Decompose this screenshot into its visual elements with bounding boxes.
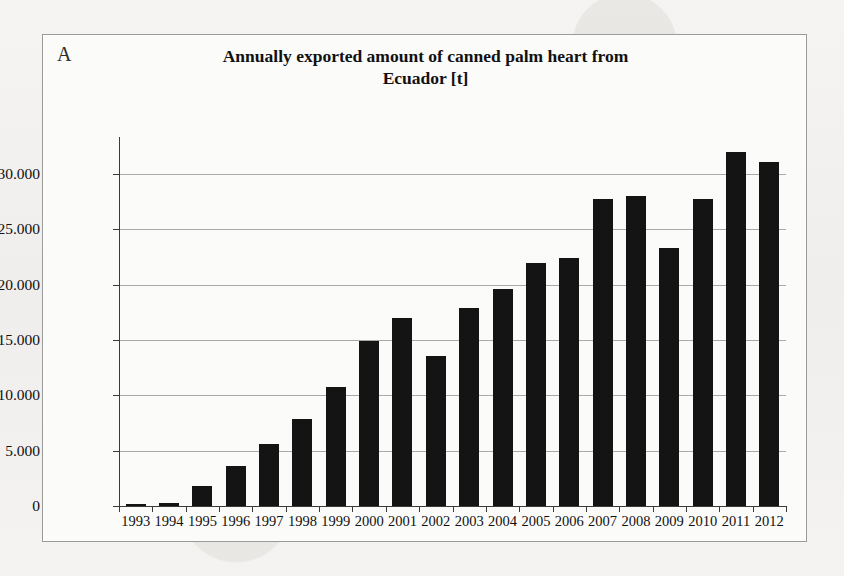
x-tick-mark <box>653 506 654 512</box>
bar <box>192 486 212 506</box>
x-tick-mark <box>553 506 554 512</box>
y-axis-tick-label: 0 <box>0 497 40 515</box>
x-tick-mark <box>686 506 687 512</box>
x-tick-mark <box>186 506 187 512</box>
x-axis-tick-label: 2012 <box>749 513 789 530</box>
y-axis-tick-label: 5.000 <box>0 442 40 460</box>
bar <box>693 199 713 506</box>
x-tick-mark <box>152 506 153 512</box>
bar <box>226 466 246 506</box>
plot-area: 05.00010.00015.00020.00025.00030.000 <box>119 141 786 506</box>
x-tick-mark <box>586 506 587 512</box>
x-tick-mark <box>219 506 220 512</box>
x-tick-mark <box>419 506 420 512</box>
chart-title-line-2: Ecuador [t] <box>113 67 738 89</box>
bar <box>426 356 446 506</box>
bar <box>593 199 613 506</box>
x-axis-tick-labels: 1993199419951996199719981999200020012002… <box>119 513 786 537</box>
bar <box>326 387 346 506</box>
x-tick-mark <box>786 506 787 512</box>
x-tick-mark <box>252 506 253 512</box>
bar <box>659 248 679 506</box>
bar <box>392 318 412 506</box>
y-axis-tick-label: 15.000 <box>0 331 40 349</box>
panel-label: A <box>57 43 72 66</box>
bar <box>459 308 479 506</box>
bar <box>493 289 513 506</box>
x-tick-mark <box>119 506 120 512</box>
x-tick-mark <box>753 506 754 512</box>
x-tick-mark <box>319 506 320 512</box>
x-tick-mark <box>519 506 520 512</box>
x-axis-ticks <box>119 506 786 513</box>
bar <box>759 162 779 506</box>
x-tick-mark <box>386 506 387 512</box>
bar <box>259 444 279 506</box>
bar-series <box>119 141 786 506</box>
x-tick-mark <box>619 506 620 512</box>
x-tick-mark <box>352 506 353 512</box>
y-axis-tick-label: 25.000 <box>0 220 40 238</box>
bar <box>359 341 379 506</box>
y-axis-tick-label: 10.000 <box>0 386 40 404</box>
x-tick-mark <box>286 506 287 512</box>
bar <box>292 419 312 506</box>
x-tick-mark <box>486 506 487 512</box>
bar <box>626 196 646 506</box>
chart-title: Annually exported amount of canned palm … <box>113 45 738 89</box>
bar <box>726 152 746 506</box>
chart-title-line-1: Annually exported amount of canned palm … <box>113 45 738 67</box>
x-tick-mark <box>719 506 720 512</box>
bar <box>559 258 579 506</box>
bar <box>526 263 546 506</box>
y-axis-tick-label: 30.000 <box>0 165 40 183</box>
y-axis-tick-label: 20.000 <box>0 276 40 294</box>
x-tick-mark <box>453 506 454 512</box>
figure-frame: A Annually exported amount of canned pal… <box>42 34 807 542</box>
